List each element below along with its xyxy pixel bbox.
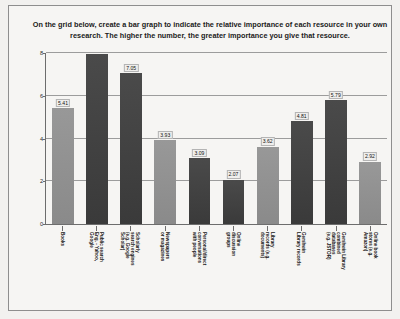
bar-value-label: 3.62 xyxy=(260,137,274,145)
x-axis-label-line: Gershwin xyxy=(301,232,306,294)
x-axis-label-line: groups xyxy=(225,232,230,294)
x-axis-label-item: Scholarlysearch engines(e.g. GoogleSchol… xyxy=(116,226,144,296)
x-axis-label-line: stores (e.g. xyxy=(367,232,372,294)
page-sheet: On the grid below, create a bar graph to… xyxy=(8,5,392,311)
bar-value-label: 7.05 xyxy=(124,64,138,72)
bar xyxy=(86,54,108,224)
bar: 2.07 xyxy=(223,180,245,224)
x-axis-tick-label: Newspapersor magazines xyxy=(160,232,170,294)
x-axis-label-line: Online xyxy=(236,232,241,294)
x-axis-tickmark xyxy=(267,226,268,231)
bar-item: 5.79 xyxy=(322,53,350,224)
x-axis-tick-label: Onlinediscussiongroups xyxy=(225,232,240,294)
x-axis-label-line: discussion xyxy=(230,232,235,294)
bar: 4.81 xyxy=(291,121,313,224)
bar-value-label: 2.07 xyxy=(226,170,240,178)
x-axis-tick-label: GershwinLibrary records xyxy=(296,232,306,294)
x-axis-tickmark xyxy=(130,226,131,231)
x-axis-tickmark xyxy=(233,226,234,231)
x-axis-tick-label: Books xyxy=(60,232,65,294)
x-axis-label-line: Eng. - Yahoo, xyxy=(94,232,99,294)
x-axis-label-item: Libraryrecords (e.g.documents) xyxy=(253,226,281,296)
bar: 3.62 xyxy=(257,147,279,224)
x-axis-tick-label: Scholarlysearch engines(e.g. GoogleSchol… xyxy=(120,232,140,294)
x-axis-label-item: Public searchEng. - Yahoo,Google xyxy=(82,226,110,296)
x-axis-label-item: Gershwin Librarycombineddatabases(e.g. J… xyxy=(322,226,350,296)
scanned-page: On the grid below, create a bar graph to… xyxy=(0,0,400,319)
x-axis-label-line: (e.g. JSTOR) xyxy=(325,232,330,294)
x-axis-tick-label: Online bookstores (e.g.Amazon) xyxy=(362,232,377,294)
x-axis-label-line: databases xyxy=(331,232,336,294)
x-axis-label-line: Amazon) xyxy=(362,232,367,294)
x-axis-label-line: Public search xyxy=(99,232,104,294)
x-axis-tickmark xyxy=(96,226,97,231)
x-axis-label-item: Onlinediscussiongroups xyxy=(219,226,247,296)
x-axis-label-line: conversations xyxy=(196,232,201,294)
x-axis-label-line: Personal/direct xyxy=(201,232,206,294)
bar-value-label: 3.09 xyxy=(192,149,206,157)
x-axis-label-line: Library xyxy=(270,232,275,294)
x-axis-label-line: combined xyxy=(336,232,341,294)
x-axis-tick-label: Public searchEng. - Yahoo,Google xyxy=(89,232,104,294)
x-axis-label-item: Personal/directconversationswith people xyxy=(185,226,213,296)
x-axis-label-line: Online book xyxy=(372,232,377,294)
bar-group: 5.417.053.933.092.073.624.815.792.92 xyxy=(46,53,387,224)
y-axis-tick-label: 4 xyxy=(40,136,43,142)
prompt-line-1: On the grid below, create a bar graph to… xyxy=(33,20,371,29)
x-axis-label-line: Newspapers xyxy=(165,232,170,294)
bar-item: 2.92 xyxy=(356,53,384,224)
y-axis-tick-label: 2 xyxy=(40,178,43,184)
x-axis-label-line: Scholarly xyxy=(136,232,141,294)
x-axis-label-item: Online bookstores (e.g.Amazon) xyxy=(356,226,384,296)
plot-area: 02468 5.417.053.933.092.073.624.815.792.… xyxy=(45,53,387,225)
x-axis-label-line: Scholar) xyxy=(120,232,125,294)
x-axis-label-item: GershwinLibrary records xyxy=(287,226,315,296)
x-axis-tickmark xyxy=(165,226,166,231)
bar-item: 3.62 xyxy=(254,53,282,224)
bar-item: 4.81 xyxy=(288,53,316,224)
bar: 3.93 xyxy=(154,140,176,224)
x-axis-label-line: Gershwin Library xyxy=(341,232,346,294)
bar-value-label: 5.79 xyxy=(329,91,343,99)
bar-item: 5.41 xyxy=(49,53,77,224)
x-axis-tickmark xyxy=(199,226,200,231)
x-axis-label-line: search engines xyxy=(130,232,135,294)
y-axis-tickmark xyxy=(43,224,46,225)
y-axis-tick-label: 8 xyxy=(40,50,43,56)
x-axis-label-group: BooksPublic searchEng. - Yahoo,GoogleSch… xyxy=(45,226,387,296)
bar: 5.79 xyxy=(325,100,347,224)
x-axis-tickmark xyxy=(370,226,371,231)
x-axis-label-line: Google xyxy=(89,232,94,294)
bar-value-label: 3.93 xyxy=(158,131,172,139)
bar-item xyxy=(83,53,111,224)
x-axis-label-line: documents) xyxy=(260,232,265,294)
x-axis-tickmark xyxy=(62,226,63,231)
x-axis-tick-label: Libraryrecords (e.g.documents) xyxy=(260,232,275,294)
x-axis-label-line: records (e.g. xyxy=(265,232,270,294)
x-axis-label-item: Books xyxy=(48,226,76,296)
bar: 7.05 xyxy=(120,73,142,224)
x-axis-label-item: Newspapersor magazines xyxy=(151,226,179,296)
x-axis-label-line: Books xyxy=(60,232,65,294)
bar-value-label: 4.81 xyxy=(295,112,309,120)
x-axis-tick-label: Personal/directconversationswith people xyxy=(191,232,206,294)
page-title: On the grid below, create a bar graph to… xyxy=(31,20,389,41)
bar-chart: 02468 5.417.053.933.092.073.624.815.792.… xyxy=(31,53,387,242)
bar-value-label: 5.41 xyxy=(56,99,70,107)
bar-item: 2.07 xyxy=(220,53,248,224)
bar-item: 3.09 xyxy=(185,53,213,224)
x-axis-label-line: with people xyxy=(191,232,196,294)
x-axis-label-line: Library records xyxy=(296,232,301,294)
x-axis-tickmark xyxy=(336,226,337,231)
bar: 3.09 xyxy=(189,158,211,224)
bar-item: 3.93 xyxy=(151,53,179,224)
y-axis-tick-label: 0 xyxy=(40,221,43,227)
y-axis-tick-label: 6 xyxy=(40,93,43,99)
x-axis-tick-label: Gershwin Librarycombineddatabases(e.g. J… xyxy=(325,232,345,294)
bar: 5.41 xyxy=(52,108,74,224)
bar: 2.92 xyxy=(359,162,381,224)
x-axis-tickmark xyxy=(301,226,302,231)
bar-item: 7.05 xyxy=(117,53,145,224)
x-axis-label-line: or magazines xyxy=(160,232,165,294)
bar-value-label: 2.92 xyxy=(363,152,377,160)
